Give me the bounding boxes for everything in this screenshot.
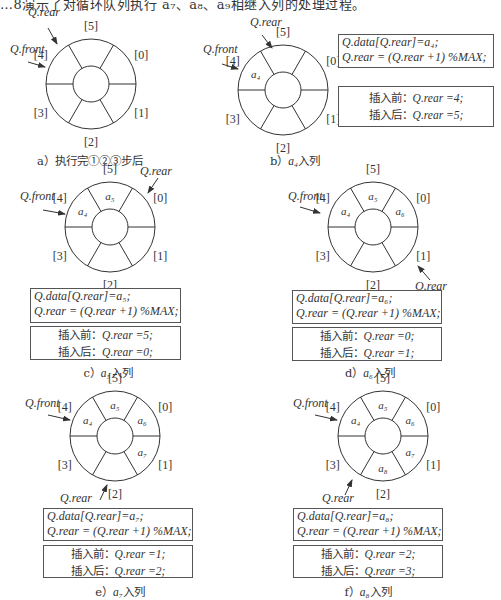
slot-element: a₅ [105, 190, 115, 202]
sector-divider [382, 243, 396, 266]
before-after-box-e: 插入前：Q.rear =1; 插入后：Q.rear =2; [43, 545, 193, 578]
code-line: Q.rear = (Q.rear +1) %MAX; [31, 304, 180, 319]
slot-element: a₆ [406, 414, 416, 426]
inner-ring [92, 209, 128, 245]
code-box-d: Q.data[Q.rear]=a₆; Q.rear = (Q.rear +1) … [292, 290, 442, 324]
after-line: 插入后：Q.rear =1; [293, 345, 441, 362]
front-pointer-label: Q.front [25, 396, 60, 410]
index-label: [1] [153, 249, 167, 263]
front-pointer-label: Q.front [10, 42, 45, 56]
after-line: 插入后：Q.rear =2; [44, 563, 192, 580]
index-label: [5] [84, 19, 98, 33]
index-label: [3] [34, 106, 48, 120]
front-pointer-label: Q.front [288, 189, 323, 203]
sector-divider [351, 243, 365, 266]
inner-ring [73, 66, 109, 102]
before-after-box-c: 插入前：Q.rear =5; 插入后：Q.rear =0; [30, 326, 181, 360]
slot-element: a₄ [251, 68, 261, 80]
sector-divider [69, 100, 83, 123]
caption-c: c）a₅入列 [83, 364, 132, 380]
front-pointer-label: Q.front [203, 42, 238, 56]
index-label: [3] [53, 249, 67, 263]
index-label: [3] [226, 112, 240, 126]
slot-element: a₇ [138, 446, 148, 458]
sector-divider [93, 397, 107, 420]
caption-a: a）执行完①②③步后 [37, 152, 143, 168]
index-label: [1] [426, 458, 440, 472]
index-label: [0] [134, 48, 148, 62]
index-label: [3] [326, 458, 340, 472]
front-arrow-icon [48, 415, 70, 420]
sector-divider [93, 452, 107, 475]
index-label: [0] [153, 191, 167, 205]
slot-element: a₅ [368, 190, 378, 202]
caption-d: d）a₆入列 [345, 364, 395, 380]
rear-pointer-label: Q.rear [322, 491, 354, 505]
sector-divider [124, 397, 138, 420]
slot-element: a₄ [351, 414, 361, 426]
sector-divider [292, 106, 306, 129]
index-label: [5] [366, 162, 380, 176]
code-line: Q.rear = (Q.rear +1) %MAX; [293, 306, 441, 321]
index-label: [4] [58, 400, 72, 414]
ring-diagram-d: [0]a₆[1][2][3][4]a₄[5]a₅Q.rearQ.front [288, 162, 447, 293]
before-line: 插入前：Q.rear =4; [339, 90, 493, 107]
sector-divider [292, 51, 306, 74]
sector-divider [361, 397, 375, 420]
code-line: Q.rear = (Q.rear +1) %MAX; [294, 524, 442, 539]
caption-f: f）a₈入列 [344, 583, 391, 599]
index-label: [4] [53, 191, 67, 205]
code-box-f: Q.data[Q.rear]=a₈; Q.rear = (Q.rear +1) … [293, 508, 443, 541]
sector-divider [392, 452, 406, 475]
code-line: Q.data[Q.rear]=a₇; [44, 509, 192, 524]
before-after-box-d: 插入前：Q.rear =0; 插入后：Q.rear =1; [292, 327, 442, 361]
sector-divider [351, 188, 365, 211]
slot-element: a₄ [341, 205, 351, 217]
rear-arrow-icon [48, 28, 57, 44]
code-box-b: Q.data[Q.rear]=a₄; Q.rear = (Q.rear +1) … [338, 34, 494, 68]
ring-diagram-a: [0][1][2][3][4][5]Q.rearQ.front [10, 5, 148, 149]
code-box-c: Q.data[Q.rear]=a₅; Q.rear = (Q.rear +1) … [30, 288, 181, 323]
front-arrow-icon [28, 62, 45, 67]
index-label: [0] [158, 400, 172, 414]
slot-element: a₇ [406, 446, 416, 458]
index-label: [0] [426, 400, 440, 414]
rear-arrow-icon [262, 35, 272, 48]
index-label: [2] [84, 135, 98, 149]
index-label: [1] [416, 249, 430, 263]
ring-diagram-e: [0]a₆[1]a₇[2][3][4]a₄[5]a₅Q.rearQ.front [25, 371, 172, 505]
slot-element: a₄ [83, 414, 93, 426]
slot-element: a₅ [110, 399, 120, 411]
slot-element: a₆ [396, 205, 406, 217]
index-label: [2] [376, 487, 390, 501]
sector-divider [261, 106, 275, 129]
sector-divider [88, 188, 102, 211]
code-line: Q.data[Q.rear]=a₅; [31, 289, 180, 304]
before-line: 插入前：Q.rear =0; [293, 328, 441, 345]
sector-divider [124, 452, 138, 475]
rear-pointer-label: Q.rear [140, 164, 172, 178]
slot-element: a₄ [78, 205, 88, 217]
sector-divider [119, 188, 133, 211]
sector-divider [100, 100, 114, 123]
rear-pointer-label: Q.rear [250, 15, 282, 29]
ring-diagram-c: [0][1][2][3][4]a₄[5]a₅Q.rearQ.front [20, 162, 172, 292]
after-line: 插入后：Q.rear =3; [294, 563, 442, 580]
code-line: Q.rear = (Q.rear +1) %MAX; [44, 524, 192, 539]
slot-element: a₆ [138, 414, 148, 426]
before-line: 插入前：Q.rear =5; [31, 327, 180, 344]
inner-ring [265, 72, 301, 108]
rear-pointer-label: Q.rear [28, 5, 60, 19]
after-line: 插入后：Q.rear =0; [31, 344, 180, 361]
sector-divider [69, 45, 83, 68]
caption-e: e）a₇入列 [95, 583, 145, 599]
before-after-box-f: 插入前：Q.rear =2; 插入后：Q.rear =3; [293, 545, 443, 578]
code-line: Q.data[Q.rear]=a₄; [339, 35, 493, 50]
front-arrow-icon [315, 415, 337, 420]
code-line: Q.rear = (Q.rear +1) %MAX; [339, 50, 493, 65]
index-label: [1] [158, 458, 172, 472]
slot-element: a₈ [378, 462, 388, 474]
index-label: [4] [326, 400, 340, 414]
sector-divider [88, 243, 102, 266]
inner-ring [97, 418, 133, 454]
